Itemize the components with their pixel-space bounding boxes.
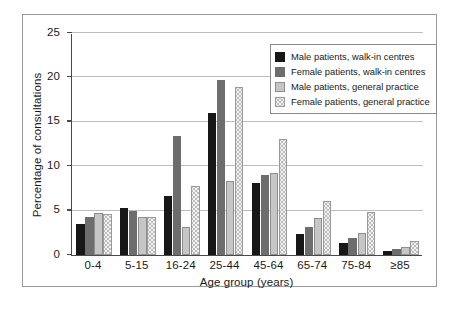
bar xyxy=(226,181,234,255)
bar xyxy=(383,251,391,255)
bar xyxy=(261,175,269,255)
bar xyxy=(252,183,260,255)
x-axis-tick-label: 75-84 xyxy=(334,259,378,271)
y-axis-tick-label: 10 xyxy=(47,159,60,171)
bar xyxy=(401,247,409,255)
bar xyxy=(182,227,190,255)
bar xyxy=(94,213,102,255)
y-axis-tick-label: 25 xyxy=(47,26,60,38)
chart-figure: Percentage of consultations 0510152025 0… xyxy=(0,0,460,311)
y-axis-tick-label: 20 xyxy=(47,70,60,82)
bar xyxy=(120,208,128,255)
bar xyxy=(235,87,243,255)
bar-group xyxy=(160,33,204,255)
legend-swatch xyxy=(275,67,285,77)
bar xyxy=(358,233,366,255)
bar xyxy=(410,241,418,255)
legend-item: Male patients, general practice xyxy=(275,79,430,94)
bar xyxy=(164,196,172,255)
bar xyxy=(279,139,287,255)
legend-label: Male patients, general practice xyxy=(291,81,419,92)
chart-legend: Male patients, walk-in centresFemale pat… xyxy=(270,44,437,114)
bar-group xyxy=(116,33,160,255)
bar xyxy=(217,80,225,255)
legend-swatch xyxy=(275,97,285,107)
y-axis-title-label: Percentage of consultations xyxy=(31,73,43,218)
legend-label: Female patients, walk-in centres xyxy=(291,66,425,77)
bar xyxy=(270,173,278,255)
legend-label: Male patients, walk-in centres xyxy=(291,51,415,62)
bar xyxy=(348,238,356,255)
bar xyxy=(76,224,84,255)
bar xyxy=(103,214,111,255)
bar xyxy=(85,217,93,255)
legend-swatch xyxy=(275,82,285,92)
x-axis-title: Age group (years) xyxy=(71,276,422,288)
bar xyxy=(367,212,375,255)
bar-group xyxy=(204,33,248,255)
x-axis-tick-label: 65-74 xyxy=(290,259,334,271)
legend-item: Female patients, general practice xyxy=(275,94,430,109)
x-axis-tick-label: 5-15 xyxy=(115,259,159,271)
y-axis-tick-label: 5 xyxy=(54,203,61,215)
bar xyxy=(138,217,146,255)
legend-swatch xyxy=(275,52,285,62)
y-axis-title: Percentage of consultations xyxy=(29,34,45,256)
x-axis-tick-label: 45-64 xyxy=(247,259,291,271)
bar xyxy=(392,249,400,255)
bar xyxy=(339,243,347,255)
legend-item: Female patients, walk-in centres xyxy=(275,64,430,79)
bar xyxy=(147,217,155,255)
bar xyxy=(191,186,199,255)
legend-label: Female patients, general practice xyxy=(291,96,430,107)
bar xyxy=(208,113,216,255)
bar xyxy=(314,218,322,255)
bar-group xyxy=(72,33,116,255)
x-axis-tick-label: 0-4 xyxy=(71,259,115,271)
legend-item: Male patients, walk-in centres xyxy=(275,49,430,64)
bar xyxy=(129,211,137,255)
bar xyxy=(323,201,331,255)
x-axis-tick-label: 16-24 xyxy=(159,259,203,271)
x-axis-tick-labels: 0-45-1516-2425-4445-6465-7475-84≥85 xyxy=(71,259,422,271)
bar xyxy=(296,234,304,255)
y-axis-tick-label: 0 xyxy=(54,248,61,260)
bar xyxy=(305,227,313,255)
bar xyxy=(173,136,181,255)
y-axis-tick-label: 15 xyxy=(47,114,60,126)
x-axis-tick-label: 25-44 xyxy=(203,259,247,271)
x-axis-tick-label: ≥85 xyxy=(378,259,422,271)
